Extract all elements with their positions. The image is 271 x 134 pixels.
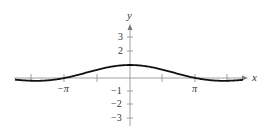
y-tick-label-neg2: −2 bbox=[111, 98, 122, 109]
y-tick-label-neg3: −3 bbox=[111, 112, 122, 123]
x-tick-label-neg-pi: −π bbox=[57, 83, 70, 94]
y-tick-label-3: 3 bbox=[118, 31, 123, 42]
y-axis-label: y bbox=[126, 9, 132, 21]
x-axis-label: x bbox=[251, 71, 257, 83]
y-tick-label-2: 2 bbox=[118, 45, 123, 56]
y-tick-label-neg1: −1 bbox=[111, 85, 122, 96]
y-axis-arrow-icon bbox=[128, 24, 133, 30]
function-curve bbox=[15, 65, 243, 81]
function-graph: x y −π π 3 2 −1 −2 −3 bbox=[0, 0, 271, 134]
x-tick-label-pi: π bbox=[192, 83, 198, 94]
